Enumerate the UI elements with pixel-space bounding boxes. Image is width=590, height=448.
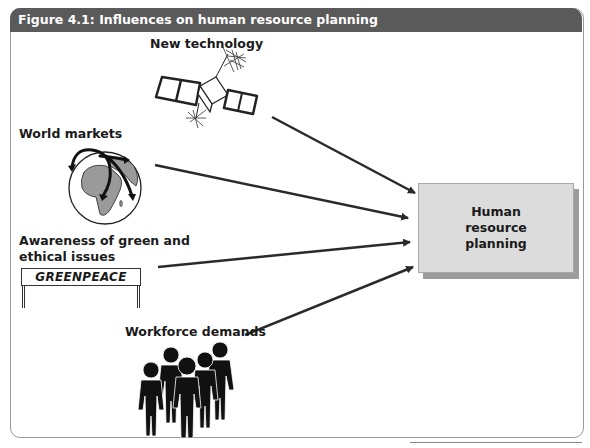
target-human-resource-planning: Human resource planning [418,183,574,273]
target-label: Human resource planning [441,204,551,252]
page-rule [410,442,582,443]
